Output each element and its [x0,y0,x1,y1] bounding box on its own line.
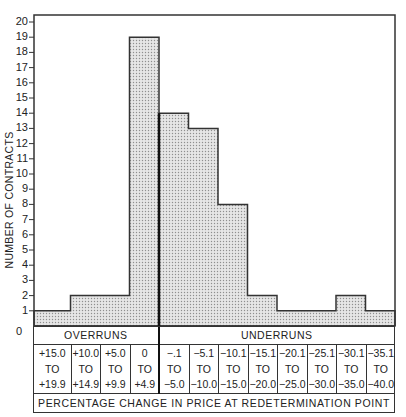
bin-label: +15.0TO+19.9 [34,345,71,393]
bin-label-bottom: +9.9 [101,377,130,393]
y-tick-label: 17 [8,61,28,73]
bin-label-top: 0 [131,346,160,362]
y-tick-label: 3 [8,273,28,285]
bin-label-bottom: −10.0 [190,377,219,393]
bin-label-top: −10.1 [219,346,248,362]
bin-label-bottom: −15.0 [219,377,248,393]
bin-label-top: −5.1 [190,346,219,362]
bin-label-mid: TO [34,362,71,378]
bin-label-top: −.1 [160,346,189,362]
bin-label-mid: TO [219,362,248,378]
histogram-bars [34,37,395,326]
bin-label-mid: TO [308,362,337,378]
group-row: OVERRUNS UNDERRUNS [34,327,394,345]
y-tick-label: 13 [8,121,28,133]
y-tick-label: 4 [8,258,28,270]
y-tick-label: 7 [8,213,28,225]
y-tick-label: 6 [8,228,28,240]
y-tick-label: 15 [8,91,28,103]
bin-label-bottom: −25.0 [278,377,307,393]
y-tick-label: 19 [8,30,28,42]
bin-label-mid: TO [160,362,189,378]
y-tick-label: 18 [8,45,28,57]
bin-label: −.1TO−5.0 [159,345,189,393]
bin-label: −30.1TO−35.0 [336,345,366,393]
y-tick-label: 20 [8,15,28,27]
bin-label-top: −25.1 [308,346,337,362]
x-axis-label: PERCENTAGE CHANGE IN PRICE AT REDETERMIN… [34,394,394,412]
bin-label: −5.1TO−10.0 [189,345,219,393]
bin-label-top: −20.1 [278,346,307,362]
group-overruns: OVERRUNS [34,327,158,344]
y-tick-label: 1 [8,304,28,316]
bin-label: +10.0TO+14.9 [71,345,101,393]
bin-label-mid: TO [101,362,130,378]
bin-label-mid: TO [367,362,396,378]
bin-label: −35.1TO−40.0 [366,345,396,393]
bin-label: −25.1TO−30.0 [307,345,337,393]
bin-label-bottom: −5.0 [160,377,189,393]
y-tick-label: 10 [8,167,28,179]
y-tick-label: 16 [8,76,28,88]
bin-label: −15.1TO−20.0 [248,345,278,393]
y-tick-label: 8 [8,197,28,209]
bin-label: 0TO+4.9 [130,345,160,393]
bin-label-top: +5.0 [101,346,130,362]
bin-label-mid: TO [337,362,366,378]
bin-label-bottom: −40.0 [367,377,396,393]
bin-label-mid: TO [190,362,219,378]
bin-label: −20.1TO−25.0 [277,345,307,393]
bin-label-bottom: −35.0 [337,377,366,393]
group-underruns: UNDERRUNS [158,327,397,344]
bin-label-bottom: −30.0 [308,377,337,393]
bin-label-top: +15.0 [34,346,71,362]
y-tick-label: 14 [8,106,28,118]
bin-label-top: −15.1 [249,346,278,362]
bin-label-bottom: +14.9 [72,377,101,393]
y-tick-label: 11 [8,152,28,164]
bin-label-bottom: +19.9 [34,377,71,393]
bin-label-mid: TO [249,362,278,378]
y-tick-label: 2 [8,289,28,301]
bin-label-mid: TO [72,362,101,378]
y-tick-label: 12 [8,137,28,149]
bin-label-mid: TO [278,362,307,378]
bin-label: −10.1TO−15.0 [218,345,248,393]
bin-labels-row: +15.0TO+19.9+10.0TO+14.9+5.0TO+9.90TO+4.… [34,345,394,394]
y-tick-label: 5 [8,243,28,255]
bin-label-top: +10.0 [72,346,101,362]
y-tick-label: 0 [2,325,22,337]
overrun-underrun-divider [158,327,161,394]
bin-label-bottom: −20.0 [249,377,278,393]
bin-label-top: −35.1 [367,346,396,362]
bin-label-mid: TO [131,362,160,378]
y-tick-label: 9 [8,182,28,194]
bin-label-top: −30.1 [337,346,366,362]
bin-label-bottom: +4.9 [131,377,160,393]
bin-label: +5.0TO+9.9 [100,345,130,393]
category-table: OVERRUNS UNDERRUNS +15.0TO+19.9+10.0TO+1… [33,326,395,413]
histogram-area [34,37,395,326]
